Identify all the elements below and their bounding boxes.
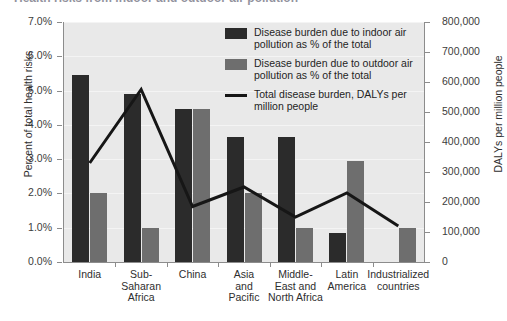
y-axis-right-tick-label: 400,000 xyxy=(442,135,480,147)
x-axis-category-line: countries xyxy=(359,281,437,293)
chart-title-clipped: Health risks from indoor and outdoor air… xyxy=(0,0,507,6)
y-axis-right-tick-label: 500,000 xyxy=(442,105,480,117)
x-axis-category-label: Industrializedcountries xyxy=(359,269,437,292)
legend-item-outdoor[interactable]: Disease burden due to outdoor air pollut… xyxy=(225,57,420,81)
y-axis-right-tick-label: 300,000 xyxy=(442,165,480,177)
y-axis-left-tick xyxy=(57,22,62,23)
chart-legend: Disease burden due to indoor air polluti… xyxy=(225,26,420,119)
y-axis-right-tick-label: 100,000 xyxy=(442,225,480,237)
x-axis-tick xyxy=(373,262,374,267)
y-axis-right-tick xyxy=(425,172,430,173)
x-axis-line xyxy=(63,262,425,263)
y-axis-left-tick xyxy=(57,56,62,57)
x-axis-category-line: Africa xyxy=(102,292,180,304)
legend-label-total: Total disease burden, DALYs per million … xyxy=(254,88,420,112)
x-axis-category-line: North Africa xyxy=(256,292,334,304)
y-axis-left-tick xyxy=(57,193,62,194)
y-axis-left-title: Percent of total health risks xyxy=(22,34,34,194)
y-axis-right-tick xyxy=(425,142,430,143)
legend-item-total[interactable]: Total disease burden, DALYs per million … xyxy=(225,88,420,112)
y-axis-right-tick-label: 700,000 xyxy=(442,45,480,57)
legend-label-outdoor: Disease burden due to outdoor air pollut… xyxy=(254,57,420,81)
x-axis-tick xyxy=(115,262,116,267)
legend-swatch-total xyxy=(225,94,247,97)
y-axis-right-line xyxy=(424,22,425,263)
y-axis-right-tick xyxy=(425,262,430,263)
y-axis-left-tick xyxy=(57,262,62,263)
y-axis-right-tick-label: 200,000 xyxy=(442,195,480,207)
y-axis-right-title: DALYs per million people xyxy=(492,34,504,194)
y-axis-right-tick xyxy=(425,82,430,83)
legend-swatch-indoor xyxy=(225,28,247,39)
y-axis-left-tick xyxy=(57,125,62,126)
y-axis-right-tick xyxy=(425,22,430,23)
y-axis-right-tick xyxy=(425,202,430,203)
y-axis-left-tick-label: 1.0% xyxy=(0,221,52,233)
y-axis-right-tick-label: 0 xyxy=(442,255,448,267)
x-axis-tick xyxy=(321,262,322,267)
y-axis-right-tick-label: 800,000 xyxy=(442,15,480,27)
page-title: Health risks from indoor and outdoor air… xyxy=(14,0,298,5)
legend-swatch-outdoor xyxy=(225,59,247,70)
x-axis-tick xyxy=(270,262,271,267)
legend-item-indoor[interactable]: Disease burden due to indoor air polluti… xyxy=(225,26,420,50)
y-axis-left-tick xyxy=(57,159,62,160)
y-axis-left-tick xyxy=(57,91,62,92)
x-axis-tick xyxy=(218,262,219,267)
y-axis-right-tick xyxy=(425,232,430,233)
y-axis-left-tick xyxy=(57,228,62,229)
legend-label-indoor: Disease burden due to indoor air polluti… xyxy=(254,26,420,50)
x-axis-tick xyxy=(167,262,168,267)
y-axis-right-tick-label: 600,000 xyxy=(442,75,480,87)
y-axis-left-tick-label: 0.0% xyxy=(0,255,52,267)
x-axis-category-line: Industrialized xyxy=(359,269,437,281)
y-axis-left-tick-label: 7.0% xyxy=(0,15,52,27)
y-axis-right-tick xyxy=(425,112,430,113)
y-axis-right-tick xyxy=(425,52,430,53)
